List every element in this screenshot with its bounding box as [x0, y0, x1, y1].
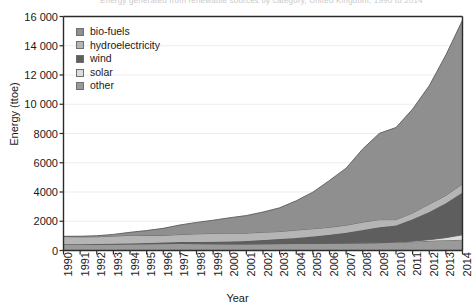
x-tick-label: 1992 — [96, 252, 107, 276]
legend-label: other — [90, 79, 114, 93]
x-tick-label: 2002 — [262, 252, 273, 276]
x-tick-label: 1991 — [79, 252, 90, 276]
y-tick-label: 16 000 — [2, 11, 58, 22]
y-tick-label: 2000 — [2, 216, 58, 227]
legend-item-solar[interactable]: solar — [76, 66, 160, 80]
legend-label: hydroelectricity — [90, 39, 160, 53]
legend-item-wind[interactable]: wind — [76, 52, 160, 66]
legend-item-hydroelectricity[interactable]: hydroelectricity — [76, 39, 160, 53]
legend-label: wind — [90, 52, 112, 66]
x-tick-label: 2007 — [345, 252, 356, 276]
x-tick-label: 2000 — [229, 252, 240, 276]
legend-swatch-icon — [76, 55, 84, 63]
x-tick-label: 2005 — [312, 252, 323, 276]
x-tick-label: 2001 — [245, 252, 256, 276]
legend-swatch-icon — [76, 41, 84, 49]
legend-label: bio-fuels — [90, 25, 130, 39]
x-tick-label: 2008 — [362, 252, 373, 276]
x-tick-label: 2003 — [279, 252, 290, 276]
x-tick-label: 2009 — [378, 252, 389, 276]
chart-legend: bio-fuelshydroelectricitywindsolarother — [76, 25, 160, 93]
x-tick-label: 2011 — [412, 252, 423, 276]
y-axis-label: Energy (ttoe) — [8, 34, 20, 194]
x-tick-label: 1995 — [146, 252, 157, 276]
x-axis-label: Year — [0, 292, 475, 304]
legend-item-bio-fuels[interactable]: bio-fuels — [76, 25, 160, 39]
x-tick-label: 1997 — [179, 252, 190, 276]
legend-item-other[interactable]: other — [76, 79, 160, 93]
x-tick-label: 1996 — [162, 252, 173, 276]
x-tick-label: 2006 — [329, 252, 340, 276]
x-tick-label: 2004 — [295, 252, 306, 276]
chart-container: Energy generated from renewable sources … — [0, 0, 475, 308]
legend-swatch-icon — [76, 69, 84, 77]
x-tick-label: 2013 — [445, 252, 456, 276]
legend-swatch-icon — [76, 82, 84, 90]
legend-label: solar — [90, 66, 113, 80]
x-tick-label: 1993 — [112, 252, 123, 276]
x-tick-label: 1999 — [212, 252, 223, 276]
x-tick-label: 2012 — [428, 252, 439, 276]
x-tick-label: 1994 — [129, 252, 140, 276]
x-tick-label: 1998 — [196, 252, 207, 276]
x-tick-label: 1990 — [63, 252, 74, 276]
x-tick-label: 2010 — [395, 252, 406, 276]
legend-swatch-icon — [76, 28, 84, 36]
x-tick-label: 2014 — [462, 252, 473, 276]
